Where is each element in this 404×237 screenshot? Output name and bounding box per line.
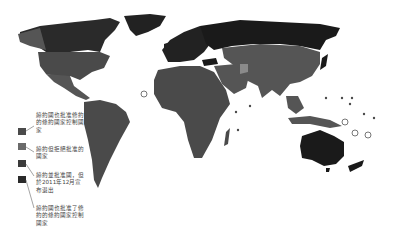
southeast-asia-region (286, 96, 304, 114)
turkey-region (202, 58, 218, 66)
australia-region (300, 130, 344, 166)
uk-region (164, 42, 170, 52)
tasmania-region (326, 168, 330, 172)
indonesia-region (288, 116, 342, 128)
legend-leader-lines (0, 0, 110, 237)
new-zealand-region (348, 160, 364, 172)
madagascar-region (224, 128, 230, 146)
africa-region (154, 66, 230, 158)
map-legend: 締約國也批准修約的條約國家控制國家 締約但拒絕批准的國家 締約並批准國，但於20… (0, 0, 110, 237)
japan-region (320, 54, 328, 70)
greenland-region (124, 14, 166, 36)
